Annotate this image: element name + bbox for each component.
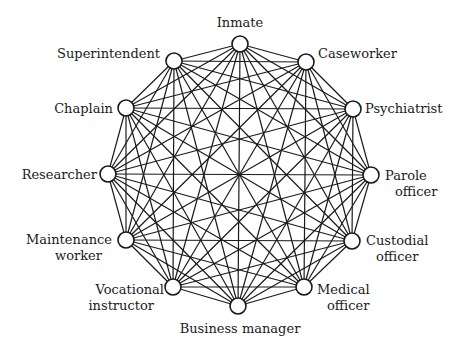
label-line: Maintenance [26,232,112,247]
label-line: Caseworker [318,46,398,61]
label-line: instructor [88,298,154,313]
node-chaplain [118,100,134,116]
label-line: worker [55,248,103,263]
node-superintendent [166,53,182,69]
node-business-manager [230,298,246,314]
label-superintendent: Superintendent [57,46,161,61]
label-line: Business manager [180,321,302,336]
label-line: Researcher [22,167,98,182]
label-line: Parole [385,168,427,183]
node-vocational-instructor [165,279,181,295]
label-line: officer [376,249,419,264]
node-parole-officer [363,167,379,183]
label-researcher: Researcher [22,167,98,182]
label-line: Vocational [94,282,164,297]
node-custodial-officer [344,233,360,249]
complete-network-diagram: InmateCaseworkerPsychiatristParoleoffice… [0,0,461,352]
label-chaplain: Chaplain [54,101,113,116]
label-line: Medical [317,282,370,297]
label-line: Inmate [217,15,264,30]
node-researcher [100,166,116,182]
node-maintenance-worker [118,232,134,248]
label-business-manager: Business manager [180,321,302,336]
label-line: Superintendent [57,46,161,61]
node-psychiatrist [345,101,361,117]
label-line: Custodial [366,233,428,248]
label-line: officer [395,184,438,199]
node-inmate [232,36,248,52]
label-inmate: Inmate [217,15,264,30]
label-line: Psychiatrist [365,101,443,116]
label-line: officer [327,298,370,313]
label-caseworker: Caseworker [318,46,398,61]
node-caseworker [298,54,314,70]
label-vocational-instructor: Vocationalinstructor [88,282,164,313]
label-line: Chaplain [54,101,113,116]
label-psychiatrist: Psychiatrist [365,101,443,116]
node-medical-officer [296,279,312,295]
